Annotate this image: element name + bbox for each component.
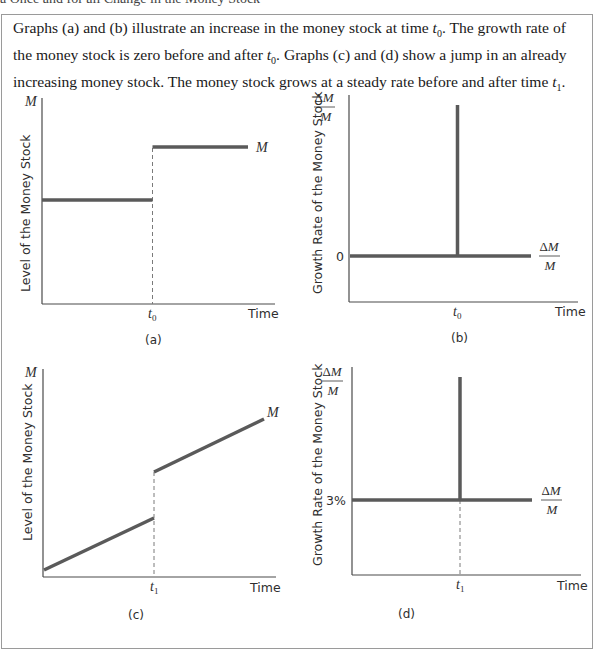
money-stock-figure: M M Level of the Money Stock Time t0 (a)… <box>0 0 600 664</box>
graph-d: ΔM M ΔM M 3% Growth Rate of the Money St… <box>310 363 588 621</box>
t1-marker: t1 <box>456 577 464 594</box>
panel-label: (c) <box>128 608 144 622</box>
money-stock-line-before <box>44 518 154 570</box>
svg-text:ΔM: ΔM <box>539 239 559 254</box>
t0-marker: t0 <box>453 304 462 321</box>
svg-text:ΔM: ΔM <box>322 364 342 379</box>
series-label: M <box>255 140 269 155</box>
money-stock-line-after <box>154 419 264 472</box>
graph-b: ΔM M ΔM M 0 Growth Rate of the Money Sto… <box>310 90 586 345</box>
y-axis-symbol: M <box>24 94 38 109</box>
t1-marker: t1 <box>150 579 158 596</box>
svg-text:M: M <box>546 502 559 517</box>
panel-label: (b) <box>451 331 468 345</box>
svg-text:M: M <box>544 258 557 273</box>
x-axis-label: Time <box>556 578 588 593</box>
y-axis-symbol: ΔM M <box>322 364 343 398</box>
y-axis-label: Level of the Money Stock <box>18 134 33 292</box>
x-axis-label: Time <box>554 304 586 319</box>
svg-text:ΔM: ΔM <box>541 483 561 498</box>
panel-label: (a) <box>145 333 162 347</box>
y-axis-label: Growth Rate of the Money Stock <box>310 363 325 566</box>
x-axis-label: Time <box>247 306 279 321</box>
series-label: ΔM M <box>541 483 562 517</box>
y-axis-symbol: M <box>24 365 38 380</box>
panel-label: (d) <box>398 607 415 621</box>
y-tick-zero: 0 <box>336 249 344 264</box>
svg-text:M: M <box>327 383 340 398</box>
x-axis-label: Time <box>249 580 281 595</box>
series-label: M <box>266 405 280 420</box>
y-axis-label: Growth Rate of the Money Stock <box>310 91 325 294</box>
graph-c: M M Level of the Money Stock Time t1 (c) <box>20 365 281 622</box>
series-label: ΔM M <box>539 239 560 273</box>
graph-a: M M Level of the Money Stock Time t0 (a) <box>18 94 279 347</box>
y-axis-label: Level of the Money Stock <box>20 383 35 541</box>
t0-marker: t0 <box>148 306 157 323</box>
y-tick-3pct: 3% <box>326 493 346 508</box>
